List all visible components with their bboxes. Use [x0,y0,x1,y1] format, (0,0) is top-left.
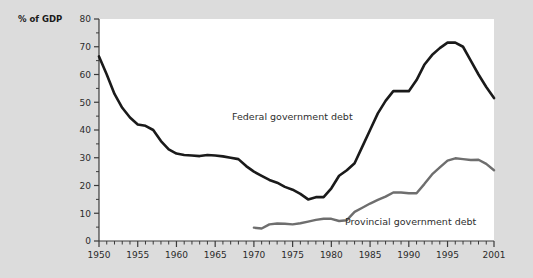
x-tick-label: 1980 [320,250,343,260]
y-tick-label: 40 [80,125,92,135]
y-tick-label: 50 [80,98,92,108]
y-tick-label: 80 [80,14,92,24]
x-tick-label: 1950 [88,250,111,260]
series-annotation-label: Provincial government debt [345,216,477,227]
chart-container: 01020304050607080 1950195519601965197019… [0,0,533,278]
y-tick-label: 10 [80,209,92,219]
y-tick-label: 70 [80,42,92,52]
x-tick-label: 1985 [359,250,382,260]
x-tick-label: 1955 [126,250,149,260]
x-tick-label: 1990 [397,250,420,260]
x-tick-label: 1995 [436,250,459,260]
x-tick-label: 1970 [242,250,265,260]
y-tick-label: 30 [80,153,92,163]
y-axis-tick-labels: 01020304050607080 [80,14,92,246]
x-tick-label: 1965 [204,250,227,260]
y-tick-label: 60 [80,70,92,80]
x-tick-label: 2001 [483,250,506,260]
x-tick-label: 1975 [281,250,304,260]
y-tick-label: 20 [80,181,92,191]
series-annotation-label: Federal government debt [232,111,353,122]
x-tick-label: 1960 [165,250,188,260]
y-tick-label: 0 [85,236,91,246]
debt-to-gdp-line-chart: 01020304050607080 1950195519601965197019… [0,0,533,278]
y-axis-title: % of GDP [18,14,62,24]
